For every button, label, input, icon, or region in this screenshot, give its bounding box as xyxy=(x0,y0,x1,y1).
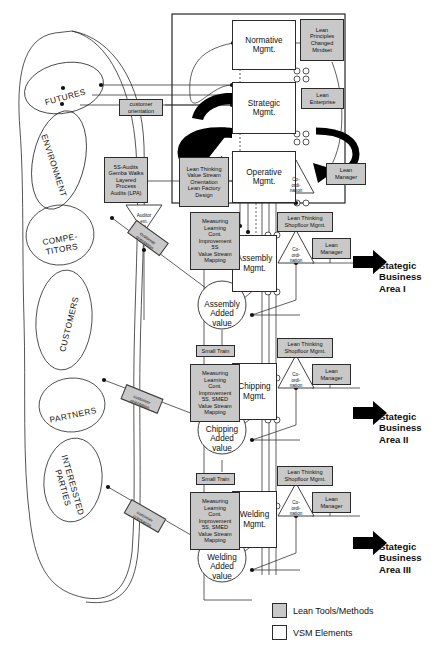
lean-tool-methods-welding[interactable]: Measuring Learning Cont. Improvement 5S,… xyxy=(190,492,240,550)
lean-tool-lean-manager-operative[interactable]: Lean Manager xyxy=(326,163,366,185)
legend-row-lean-tools: Lean Tools/Methods xyxy=(272,603,373,618)
lean-tool-methods-assembly[interactable]: Measuring Learning Cont. Improvement 5S … xyxy=(190,212,240,270)
lean-tool-lean-manager-assembly[interactable]: Lean Manager xyxy=(312,238,351,259)
lean-tool-methods-chipping[interactable]: Measuring Learning Cont. Improvement 5S,… xyxy=(190,364,240,422)
welding-mgmt-label: Welding Mgmt. xyxy=(240,510,269,528)
lean-tool-lean-manager-welding[interactable]: Lean Manager xyxy=(312,492,351,513)
strategic-business-area-2: Stategic Business Area II xyxy=(379,399,441,446)
vsm-box-normative-mgmt[interactable]: Normative Mgmt. xyxy=(232,20,296,70)
coordination-label-assembly: Co- ordi- nation xyxy=(282,242,310,263)
lean-tool-shopfloor-assembly[interactable]: Lean Thinking Shopfloor Mgmt. xyxy=(277,212,333,232)
lean-tool-audits[interactable]: 5S-Audits Gemba Walks Layered Process Au… xyxy=(104,157,148,203)
chipping-mgmt-label: Chipping Mgmt. xyxy=(238,382,270,400)
added-value-assembly-label: Assembly Added value xyxy=(198,291,246,328)
coordination-label-chipping: Co- ordi- nation xyxy=(282,367,310,388)
diagram-canvas: Normative Mgmt. Strategic Mgmt. Operativ… xyxy=(0,0,443,663)
lean-tool-lean-enterprise[interactable]: Lean Enterprise xyxy=(301,88,344,109)
strategic-business-area-1: Stategic Business Area I xyxy=(379,248,441,295)
lean-tool-lean-manager-chipping[interactable]: Lean Manager xyxy=(312,364,351,385)
coordination-label-operative: Co- ordi- nation xyxy=(282,172,310,193)
lean-tool-small-train-2[interactable]: Small Train xyxy=(196,473,235,485)
lean-tool-lean-thinking-operative[interactable]: Lean Thinking Value Stream Orientation L… xyxy=(179,157,229,207)
lean-tool-customer-orientation-top[interactable]: customer orientation xyxy=(119,99,163,116)
lean-tool-shopfloor-chipping[interactable]: Lean Thinking Shopfloor Mgmt. xyxy=(277,338,333,358)
normative-mgmt-label: Normative Mgmt. xyxy=(245,36,282,54)
legend-swatch-lean-tools xyxy=(272,603,287,618)
legend-label-vsm-elements: VSM Elements xyxy=(293,628,353,638)
legend-swatch-vsm-elements xyxy=(272,625,287,640)
strategic-mgmt-label: Strategic Mgmt. xyxy=(248,99,280,117)
coordination-label-welding: Co- ordi- nation xyxy=(282,495,310,516)
lean-tool-lean-principles[interactable]: Lean Principles Changed Mindset xyxy=(300,19,344,61)
legend-row-vsm-elements: VSM Elements xyxy=(272,625,353,640)
vsm-box-strategic-mgmt[interactable]: Strategic Mgmt. xyxy=(232,82,296,134)
lean-tool-shopfloor-welding[interactable]: Lean Thinking Shopfloor Mgmt. xyxy=(277,466,333,486)
operative-mgmt-label: Operative Mgmt. xyxy=(246,168,282,186)
strategic-business-area-3: Stategic Business Area III xyxy=(379,529,441,576)
assembly-mgmt-label: Assembly Mgmt. xyxy=(237,254,273,272)
legend-label-lean-tools: Lean Tools/Methods xyxy=(293,606,373,616)
lean-tool-small-train-1[interactable]: Small Train xyxy=(196,345,235,357)
